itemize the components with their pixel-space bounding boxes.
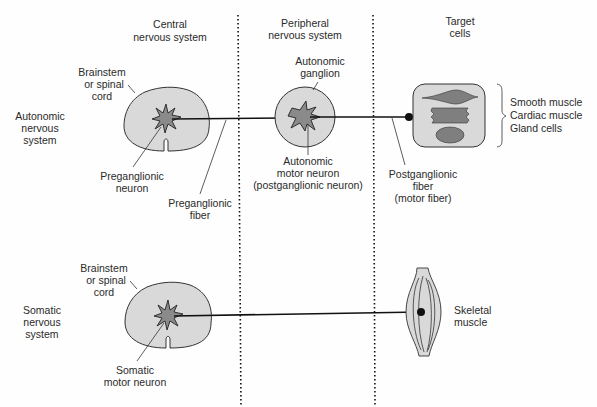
somatic-cord-leader	[130, 281, 137, 289]
autonomic-ganglion-label: Autonomic ganglion	[295, 55, 345, 79]
svg-text:system: system	[23, 134, 57, 146]
preganglionic-neuron-label: Preganglionic neuron	[100, 170, 164, 194]
svg-text:or spinal: or spinal	[86, 274, 126, 286]
svg-text:motor neuron: motor neuron	[277, 167, 340, 179]
svg-text:ganglion: ganglion	[300, 67, 340, 79]
autonomic-target-list: Smooth muscle Cardiac muscle Gland cells	[510, 96, 583, 134]
target-cardiac-muscle: Cardiac muscle	[510, 109, 583, 121]
svg-text:neuron: neuron	[116, 182, 149, 194]
svg-text:(motor fiber): (motor fiber)	[394, 192, 451, 204]
svg-text:Preganglionic: Preganglionic	[100, 170, 164, 182]
svg-text:Peripheral: Peripheral	[281, 17, 329, 29]
svg-text:nervous: nervous	[21, 122, 58, 134]
postganglionic-terminal	[405, 113, 413, 121]
svg-text:cord: cord	[92, 90, 113, 102]
cns-pns-divider	[238, 15, 241, 407]
svg-text:cord: cord	[94, 286, 115, 298]
postganglionic-fiber-leader	[392, 118, 405, 165]
svg-text:Preganglionic: Preganglionic	[168, 197, 232, 209]
somatic-motor-neuron-label: Somatic motor neuron	[104, 364, 167, 388]
target-column-header: Target cells	[445, 15, 474, 39]
svg-text:Autonomic: Autonomic	[295, 55, 345, 67]
svg-text:Somatic: Somatic	[23, 304, 61, 316]
svg-text:system: system	[25, 328, 59, 340]
svg-text:or spinal: or spinal	[84, 78, 124, 90]
svg-text:Autonomic: Autonomic	[283, 155, 333, 167]
target-smooth-muscle: Smooth muscle	[510, 96, 583, 108]
svg-text:fiber: fiber	[413, 180, 434, 192]
cns-column-header: Central nervous system	[133, 18, 207, 43]
target-gland-cells: Gland cells	[510, 122, 562, 134]
svg-text:Skeletal: Skeletal	[454, 304, 491, 316]
pns-target-divider	[373, 15, 375, 407]
svg-text:motor neuron: motor neuron	[104, 376, 167, 388]
gland-cell	[436, 127, 464, 143]
svg-text:nervous: nervous	[23, 316, 60, 328]
autonomic-motor-neuron-label: Autonomic motor neuron (postganglionic n…	[253, 155, 363, 191]
somatic-terminal	[417, 308, 425, 316]
postganglionic-fiber-label: Postganglionic fiber (motor fiber)	[389, 168, 457, 204]
somatic-row-label: Somatic nervous system	[23, 304, 61, 340]
svg-text:Postganglionic: Postganglionic	[389, 168, 457, 180]
autonomic-cord-leader	[128, 85, 135, 93]
svg-text:Autonomic: Autonomic	[15, 110, 65, 122]
svg-text:Somatic: Somatic	[116, 364, 154, 376]
svg-text:muscle: muscle	[454, 316, 487, 328]
svg-text:Central: Central	[153, 18, 187, 30]
autonomic-row-label: Autonomic nervous system	[15, 110, 65, 146]
svg-text:nervous system: nervous system	[133, 31, 207, 43]
svg-text:fiber: fiber	[190, 209, 211, 221]
svg-text:Target: Target	[445, 15, 474, 27]
preganglionic-fiber	[172, 118, 289, 119]
svg-text:cells: cells	[449, 27, 470, 39]
nervous-system-diagram: Central nervous system Peripheral nervou…	[0, 0, 597, 407]
svg-text:(postganglionic neuron): (postganglionic neuron)	[253, 179, 363, 191]
autonomic-cord-label: Brainstem or spinal cord	[78, 66, 126, 102]
somatic-cord-label: Brainstem or spinal cord	[80, 262, 128, 298]
preganglionic-fiber-label: Preganglionic fiber	[168, 197, 232, 221]
target-cells-brace	[497, 84, 506, 147]
skeletal-muscle-label: Skeletal muscle	[454, 304, 491, 328]
cardiac-muscle-cell	[431, 108, 469, 123]
svg-text:Brainstem: Brainstem	[78, 66, 126, 78]
svg-text:nervous system: nervous system	[268, 29, 342, 41]
svg-text:Brainstem: Brainstem	[80, 262, 128, 274]
pns-column-header: Peripheral nervous system	[268, 17, 342, 41]
